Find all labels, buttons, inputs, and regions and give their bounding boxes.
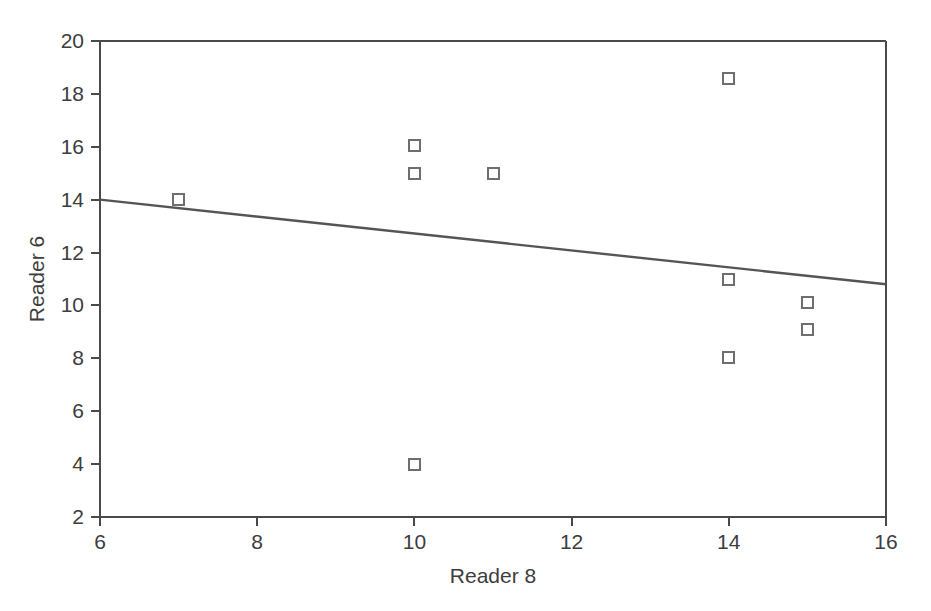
x-tick-label: 16 (874, 530, 897, 553)
figure-background (0, 0, 931, 611)
y-tick-label: 14 (61, 188, 85, 211)
y-tick-label: 16 (61, 135, 84, 158)
y-axis-title: Reader 6 (25, 236, 48, 322)
y-tick-label: 10 (61, 293, 84, 316)
x-axis-title: Reader 8 (450, 564, 536, 587)
y-tick-label: 20 (61, 29, 84, 52)
plot-canvas: 2468101214161820 6810121416 Reader 8 Rea… (0, 0, 931, 611)
y-tick-label: 18 (61, 82, 84, 105)
y-tick-label: 6 (72, 399, 84, 422)
y-tick-label: 4 (72, 452, 84, 475)
x-tick-label: 8 (251, 530, 263, 553)
x-tick-label: 14 (717, 530, 741, 553)
y-tick-label: 12 (61, 241, 84, 264)
y-tick-label: 8 (72, 346, 84, 369)
x-tick-label: 12 (560, 530, 583, 553)
y-tick-label: 2 (72, 505, 84, 528)
scatter-plot-figure: 2468101214161820 6810121416 Reader 8 Rea… (0, 0, 931, 611)
x-tick-label: 10 (403, 530, 426, 553)
x-tick-label: 6 (94, 530, 106, 553)
